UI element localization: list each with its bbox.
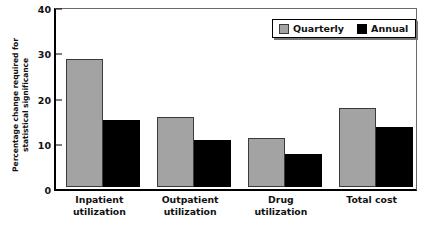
bar-annual: [376, 127, 413, 187]
x-axis-label: Drugutilization: [236, 194, 327, 217]
legend-swatch-quarterly-icon: [279, 24, 289, 34]
bar-group: [58, 9, 149, 187]
x-axis-label-line: Inpatient: [54, 194, 145, 206]
bar-annual: [103, 120, 140, 187]
bar-annual: [285, 154, 322, 187]
x-axis-label-line: Outpatient: [145, 194, 236, 206]
bar-annual: [194, 140, 231, 188]
y-axis-tick-label: 20: [38, 94, 51, 105]
x-axis-label-line: Total cost: [326, 194, 417, 206]
y-axis-tick-label: 40: [38, 4, 51, 15]
bar-quarterly: [339, 108, 376, 187]
bar-quarterly: [248, 138, 285, 187]
x-axis-label-line: utilization: [145, 206, 236, 218]
y-axis-tick-label: 0: [44, 185, 51, 196]
y-axis-tick-label: 30: [38, 49, 51, 60]
legend-entry-annual: Annual: [357, 23, 408, 34]
y-axis-tick-label: 10: [38, 139, 51, 150]
x-axis-label-line: Drug: [236, 194, 327, 206]
x-axis-label: Outpatientutilization: [145, 194, 236, 217]
x-axis-label: Inpatientutilization: [54, 194, 145, 217]
x-axis-labels: InpatientutilizationOutpatientutilizatio…: [54, 194, 417, 230]
legend-label-quarterly: Quarterly: [293, 23, 344, 34]
legend-swatch-annual-icon: [357, 24, 367, 34]
bar-quarterly: [66, 59, 103, 187]
bar-group: [149, 9, 240, 187]
chart-legend: Quarterly Annual: [272, 19, 416, 38]
legend-entry-quarterly: Quarterly: [279, 23, 344, 34]
y-axis-title: Percentage change required for statistic…: [11, 10, 31, 200]
x-axis-label-line: utilization: [236, 206, 327, 218]
x-axis-label: Total cost: [326, 194, 417, 206]
bar-quarterly: [157, 117, 194, 187]
x-axis-label-line: utilization: [54, 206, 145, 218]
bar-chart-figure: Percentage change required for statistic…: [0, 0, 426, 231]
y-axis-title-line-2: statistical significance: [21, 10, 31, 200]
legend-label-annual: Annual: [371, 23, 408, 34]
y-axis-title-line-1: Percentage change required for: [11, 10, 21, 200]
